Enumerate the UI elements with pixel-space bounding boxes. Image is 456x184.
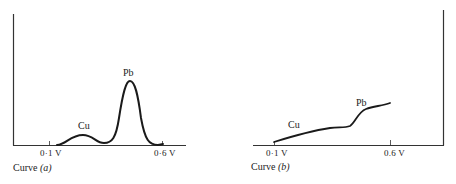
panel-a-caption: Curve (a) [13,163,52,173]
panel-b-cu-label: Cu [288,120,300,130]
panel-b-pb-label: Pb [356,98,367,108]
panel-a-caption-tag: (a) [40,162,52,173]
panel-b-tick-label-left: 0·1 V [266,148,288,158]
panel-b-caption: Curve (b) [251,162,290,172]
panel-b-caption-text: Curve [251,161,275,172]
panel-a-curve [57,81,163,145]
panel-a-axes [13,14,186,146]
panel-a-tick-label-right: 0·6 V [154,148,176,158]
panel-b-tick-label-right: 0.6 V [384,148,405,158]
panel-b-caption-tag: (b) [278,161,290,172]
panel-a-tick-label-left: 0·1 V [40,148,62,158]
panel-a-caption-text: Curve [13,162,37,173]
panel-a-cu-label: Cu [78,121,90,131]
panel-b-axes [253,10,444,146]
panel-a-pb-label: Pb [123,68,134,78]
